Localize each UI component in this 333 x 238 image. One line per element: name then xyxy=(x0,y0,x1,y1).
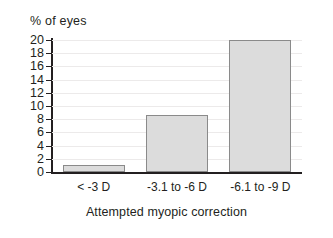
x-axis-spine xyxy=(51,172,302,174)
plot-area: 02468101214161820 xyxy=(52,40,302,172)
y-tick-mark xyxy=(46,40,52,41)
y-tick-label: 16 xyxy=(30,60,44,73)
y-tick-label: 20 xyxy=(30,34,44,47)
y-tick-mark xyxy=(46,66,52,67)
y-tick-mark xyxy=(46,172,52,173)
y-tick-mark xyxy=(46,132,52,133)
bar xyxy=(146,115,208,172)
y-axis-label: % of eyes xyxy=(30,14,87,28)
y-tick-mark xyxy=(46,53,52,54)
y-tick-mark xyxy=(46,146,52,147)
y-tick-label: 10 xyxy=(30,100,44,113)
y-tick-label: 12 xyxy=(30,87,44,100)
y-tick-label: 8 xyxy=(37,113,44,126)
bar xyxy=(229,40,291,172)
y-tick-label: 2 xyxy=(37,153,44,166)
x-tick-label: -6.1 to -9 D xyxy=(230,180,290,194)
y-tick-label: 6 xyxy=(37,126,44,139)
x-tick-label: -3.1 to -6 D xyxy=(147,180,207,194)
y-tick-label: 14 xyxy=(30,73,44,86)
bar xyxy=(63,165,125,172)
y-tick-label: 4 xyxy=(37,139,44,152)
y-tick-mark xyxy=(46,119,52,120)
y-tick-mark xyxy=(46,159,52,160)
y-tick-label: 0 xyxy=(37,166,44,179)
x-axis-title: Attempted myopic correction xyxy=(0,205,333,219)
y-tick-label: 18 xyxy=(30,47,44,60)
x-tick-label: < -3 D xyxy=(77,180,110,194)
bar-chart-figure: % of eyes 02468101214161820 Attempted my… xyxy=(0,0,333,238)
y-tick-mark xyxy=(46,106,52,107)
y-tick-mark xyxy=(46,93,52,94)
y-tick-mark xyxy=(46,80,52,81)
